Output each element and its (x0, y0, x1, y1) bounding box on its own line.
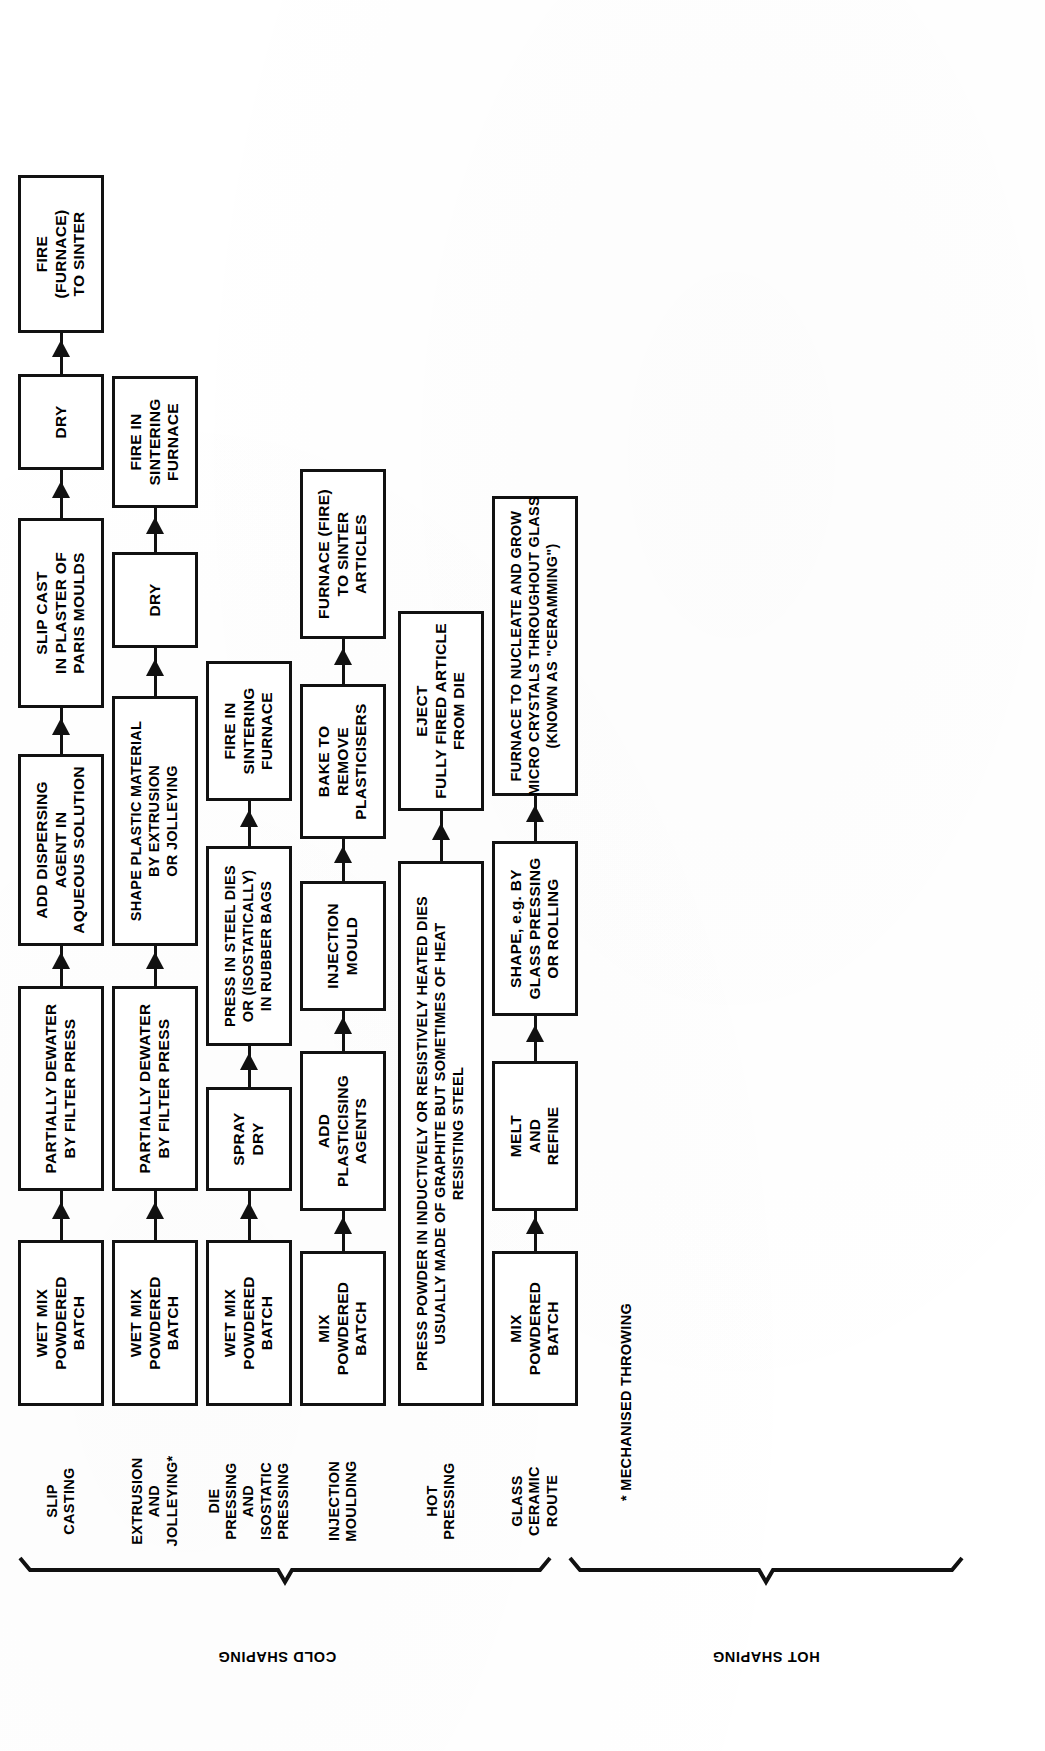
process-box-s4-5[interactable]: FURNACE (FIRE)TO SINTERARTICLES (300, 469, 386, 639)
route-label-line: HOT (424, 1441, 441, 1561)
process-box-s4-1[interactable]: MIXPOWDEREDBATCH (300, 1251, 386, 1406)
flow-arrowhead-icon (334, 846, 352, 863)
box-line: FURNACE (FIRE) (315, 489, 334, 619)
process-box-s2-5[interactable]: FIRE INSINTERINGFURNACE (112, 376, 198, 508)
process-box-s1-2[interactable]: PARTIALLY DEWATERBY FILTER PRESS (18, 986, 104, 1191)
box-line: OR ROLLING (544, 878, 563, 978)
route-label-line: AND (240, 1441, 257, 1561)
flow-arrowhead-icon (240, 1202, 258, 1219)
box-line: PLASTICISERS (352, 703, 371, 819)
flow-arrowhead-icon (334, 1017, 352, 1034)
box-line: EJECT (413, 685, 432, 736)
flow-arrowhead-icon (52, 481, 70, 498)
box-line: PARTIALLY DEWATER (42, 1004, 61, 1174)
route-label-line: CASTING (61, 1441, 78, 1561)
process-box-s2-4[interactable]: DRY (112, 552, 198, 648)
route-label-hot-pressing: HOTPRESSING (424, 1441, 459, 1561)
route-label-line: DIE (206, 1441, 223, 1561)
process-box-s5-2[interactable]: EJECTFULLY FIRED ARTICLEFROM DIE (398, 611, 484, 811)
flow-arrowhead-icon (52, 340, 70, 357)
route-label-line: EXTRUSION (129, 1441, 146, 1561)
footnote-mechanised-throwing: * MECHANISED THROWING (618, 1303, 634, 1501)
box-line: USUALLY MADE OF GRAPHITE BUT SOMETIMES O… (432, 923, 450, 1345)
box-line: TO SINTER (334, 511, 353, 596)
box-line: FURNACE (258, 692, 277, 770)
process-box-s2-2[interactable]: PARTIALLY DEWATERBY FILTER PRESS (112, 986, 198, 1191)
flow-arrowhead-icon (146, 517, 164, 534)
flow-arrowhead-icon (432, 823, 450, 840)
route-label-line: GLASS (509, 1441, 526, 1561)
box-line: BATCH (164, 1296, 183, 1351)
box-line: SINTERING (146, 398, 165, 485)
group-label-cold-shaping: COLD SHAPING (218, 1649, 336, 1665)
flow-arrowhead-icon (146, 952, 164, 969)
process-box-s3-3[interactable]: PRESS IN STEEL DIESOR (ISOSTATICALLY)IN … (206, 846, 292, 1046)
process-box-s4-2[interactable]: ADDPLASTICISINGAGENTS (300, 1051, 386, 1211)
box-line: MICRO CRYSTALS THROUGHOUT GLASS (526, 496, 544, 796)
route-label-line: CERAMIC (526, 1441, 543, 1561)
process-box-s6-1[interactable]: MIXPOWDEREDBATCH (492, 1251, 578, 1406)
box-line: FURNACE TO NUCLEATE AND GROW (508, 511, 526, 782)
box-line: FULLY FIRED ARTICLE (432, 623, 451, 799)
box-line: BY FILTER PRESS (61, 1019, 80, 1159)
route-label-line: ROUTE (544, 1441, 561, 1561)
box-line: AGENTS (352, 1098, 371, 1164)
route-label-line: SLIP (44, 1441, 61, 1561)
box-line: PRESS IN STEEL DIES (222, 865, 240, 1027)
box-line: POWDERED (334, 1282, 353, 1376)
box-line: RESISTING STEEL (450, 1067, 468, 1200)
box-line: REFINE (544, 1107, 563, 1166)
process-box-s3-2[interactable]: SPRAYDRY (206, 1087, 292, 1191)
box-line: AQUEOUS SOLUTION (70, 766, 89, 934)
process-box-s1-6[interactable]: FIRE(FURNACE)TO SINTER (18, 175, 104, 333)
box-line: ADD (315, 1114, 334, 1148)
flow-arrowhead-icon (240, 1053, 258, 1070)
box-line: ADD DISPERSING (33, 781, 52, 919)
process-box-s4-4[interactable]: BAKE TOREMOVEPLASTICISERS (300, 684, 386, 839)
box-line: BY EXTRUSION (146, 765, 164, 877)
route-label-line: AND (146, 1441, 163, 1561)
box-line: SHAPE PLASTIC MATERIAL (128, 721, 146, 921)
box-line: OR JOLLEYING (164, 765, 182, 877)
box-line: POWDERED (526, 1282, 545, 1376)
process-box-s2-3[interactable]: SHAPE PLASTIC MATERIALBY EXTRUSIONOR JOL… (112, 696, 198, 946)
process-box-s5-1[interactable]: PRESS POWDER IN INDUCTIVELY OR RESISTIVE… (398, 861, 484, 1406)
process-box-s3-4[interactable]: FIRE INSINTERINGFURNACE (206, 661, 292, 801)
process-box-s6-2[interactable]: MELTANDREFINE (492, 1061, 578, 1211)
process-box-s1-5[interactable]: DRY (18, 374, 104, 470)
route-label-line: INJECTION (326, 1441, 343, 1561)
process-box-s6-3[interactable]: SHAPE, e.g. BYGLASS PRESSINGOR ROLLING (492, 841, 578, 1016)
box-line: WET MIX (33, 1289, 52, 1357)
flow-arrowhead-icon (526, 805, 544, 822)
route-label-die-pressing-and-isostatic-pressing: DIEPRESSINGANDISOSTATICPRESSING (206, 1441, 293, 1561)
box-line: IN PLASTER OF (52, 552, 71, 674)
process-box-s1-4[interactable]: SLIP CASTIN PLASTER OFPARIS MOULDS (18, 518, 104, 708)
box-line: PRESS POWDER IN INDUCTIVELY OR RESISTIVE… (414, 896, 432, 1371)
box-line: POWDERED (52, 1276, 71, 1370)
flow-arrowhead-icon (334, 1217, 352, 1234)
flow-arrowhead-icon (52, 718, 70, 735)
route-label-line: PRESSING (275, 1441, 292, 1561)
process-box-s1-1[interactable]: WET MIXPOWDEREDBATCH (18, 1240, 104, 1406)
flow-arrowhead-icon (334, 648, 352, 665)
route-label-injection-moulding: INJECTIONMOULDING (326, 1441, 361, 1561)
route-label-line: PRESSING (223, 1441, 240, 1561)
box-line: FIRE (33, 236, 52, 273)
process-box-s1-3[interactable]: ADD DISPERSINGAGENT INAQUEOUS SOLUTION (18, 754, 104, 946)
box-line: AGENT IN (52, 812, 71, 888)
box-line: PLASTICISING (334, 1075, 353, 1187)
box-line: BATCH (70, 1296, 89, 1351)
box-line: SHAPE, e.g. BY (507, 869, 526, 988)
process-box-s2-1[interactable]: WET MIXPOWDEREDBATCH (112, 1240, 198, 1406)
flow-arrowhead-icon (526, 1025, 544, 1042)
box-line: BATCH (544, 1301, 563, 1356)
box-line: PARIS MOULDS (70, 552, 89, 673)
box-line: IN RUBBER BAGS (258, 881, 276, 1012)
process-box-s3-1[interactable]: WET MIXPOWDEREDBATCH (206, 1240, 292, 1406)
process-box-s6-4[interactable]: FURNACE TO NUCLEATE AND GROWMICRO CRYSTA… (492, 496, 578, 796)
box-line: SINTERING (240, 687, 259, 774)
box-line: FIRE IN (127, 413, 146, 470)
flowchart-canvas: SLIPCASTINGWET MIXPOWDEREDBATCHPARTIALLY… (0, 0, 1045, 1751)
process-box-s4-3[interactable]: INJECTIONMOULD (300, 881, 386, 1011)
box-line: WET MIX (221, 1289, 240, 1357)
